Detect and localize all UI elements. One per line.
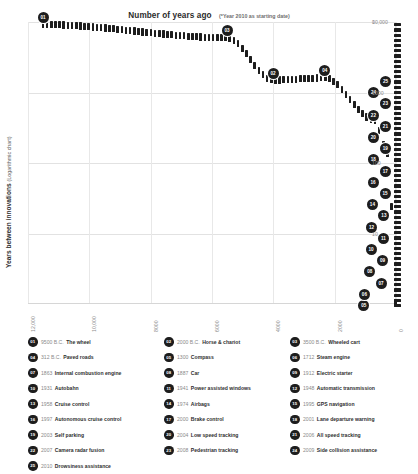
legend-badge-07: 07 xyxy=(28,368,38,378)
legend-item-year: 2006 xyxy=(303,432,314,438)
curve-tick-mark xyxy=(390,203,393,210)
legend-item-year: 1712 xyxy=(303,354,314,360)
legend-item-19[interactable]: 192003Self parking xyxy=(28,427,153,443)
curve-tick-mark xyxy=(394,226,401,229)
curve-tick-mark xyxy=(394,158,401,161)
curve-tick-mark xyxy=(92,23,95,30)
curve-tick-mark xyxy=(394,304,401,307)
data-point-badge-23[interactable]: 23 xyxy=(380,98,391,109)
legend-item-08[interactable]: 081887Car xyxy=(164,365,289,381)
curve-tick-mark xyxy=(112,25,115,32)
legend-item-10[interactable]: 101931Autobahn xyxy=(28,381,153,397)
data-point-badge-11[interactable]: 11 xyxy=(378,233,389,244)
x-axis-ticks: 12,00010,00080006000400020000 xyxy=(28,308,396,334)
legend-item-18[interactable]: 182001Lane departure warning xyxy=(290,412,418,428)
curve-tick-mark xyxy=(394,153,401,156)
legend-item-17[interactable]: 172000Brake control xyxy=(164,412,289,428)
curve-tick-mark xyxy=(158,30,161,37)
legend-item-14[interactable]: 141974Airbags xyxy=(164,396,289,412)
legend-item-year: 2001 xyxy=(303,416,314,422)
data-point-badge-17[interactable]: 17 xyxy=(380,166,391,177)
legend-item-20[interactable]: 202004Low speed tracking xyxy=(164,427,289,443)
legend-item-year: 1997 xyxy=(41,416,52,422)
gridline-v-6000 xyxy=(212,22,213,304)
data-point-badge-10[interactable]: 10 xyxy=(366,244,377,255)
curve-tick-mark xyxy=(237,40,240,47)
legend-item-name: Autobahn xyxy=(55,385,79,391)
data-point-badge-15[interactable]: 15 xyxy=(380,188,391,199)
curve-tick-mark xyxy=(220,34,223,41)
legend-item-year: 2010 xyxy=(41,463,52,469)
legend-item-01[interactable]: 019500 B.C.The wheel xyxy=(28,334,153,350)
curve-tick-mark xyxy=(299,75,302,82)
page-title: Number of years ago xyxy=(128,11,211,20)
data-point-badge-02[interactable]: 02 xyxy=(268,68,279,79)
curve-tick-mark xyxy=(199,33,202,40)
curve-tick-mark xyxy=(394,54,401,57)
legend-badge-22: 22 xyxy=(28,446,38,456)
legend-item-15[interactable]: 151995GPS navigation xyxy=(290,396,418,412)
legend-item-11[interactable]: 111941Power assisted windows xyxy=(164,381,289,397)
curve-tick-mark xyxy=(353,101,356,108)
data-point-badge-22[interactable]: 22 xyxy=(368,110,379,121)
legend-item-05[interactable]: 051300Compass xyxy=(164,350,289,366)
legend-item-year: 1974 xyxy=(177,401,188,407)
legend-item-name: Paved roads xyxy=(63,354,93,360)
curve-tick-mark xyxy=(332,78,335,85)
curve-tick-mark xyxy=(394,179,401,182)
legend-item-07[interactable]: 071863Internal combustion engine xyxy=(28,365,153,381)
legend-item-13[interactable]: 131958Cruise control xyxy=(28,396,153,412)
legend-item-12[interactable]: 121948Automatic transmission xyxy=(290,381,418,397)
curve-tick-mark xyxy=(394,288,401,291)
y-axis-title: Years between innovations (Logarithmic c… xyxy=(5,137,12,268)
legend-item-23[interactable]: 232008Pedestrian tracking xyxy=(164,443,289,459)
legend-item-02[interactable]: 022000 B.C.Horse & chariot xyxy=(164,334,289,350)
y-tick-label-100: 100 xyxy=(372,160,381,166)
data-point-badge-25[interactable]: 25 xyxy=(380,76,391,87)
legend-badge-18: 18 xyxy=(290,415,300,425)
legend-badge-10: 10 xyxy=(28,384,38,394)
x-tick-label-10000: 10,000 xyxy=(91,316,97,332)
data-point-badge-08[interactable]: 08 xyxy=(364,266,375,277)
data-point-badge-19[interactable]: 19 xyxy=(380,143,391,154)
data-point-badge-06[interactable]: 06 xyxy=(359,289,370,300)
curve-tick-mark xyxy=(262,71,265,78)
curve-tick-mark xyxy=(394,200,401,203)
data-point-badge-01[interactable]: 01 xyxy=(38,12,49,23)
curve-tick-mark xyxy=(394,75,401,78)
curve-tick-mark xyxy=(141,28,144,35)
curve-tick-mark xyxy=(125,27,128,34)
curve-tick-mark xyxy=(394,122,401,125)
legend-item-name: Power assisted windows xyxy=(191,385,251,391)
legend-item-06[interactable]: 061712Steam engine xyxy=(290,350,418,366)
chart-legend: 019500 B.C.The wheel04312 B.C.Paved road… xyxy=(24,334,418,460)
data-point-badge-16[interactable]: 16 xyxy=(368,177,379,188)
curve-tick-mark xyxy=(116,26,119,33)
legend-item-year: 2009 xyxy=(303,447,314,453)
curve-tick-mark xyxy=(394,205,401,208)
legend-item-16[interactable]: 161997Autonomous cruise control xyxy=(28,412,153,428)
legend-item-09[interactable]: 091912Electric starter xyxy=(290,365,418,381)
data-point-badge-14[interactable]: 14 xyxy=(367,199,378,210)
legend-item-21[interactable]: 212006All speed tracking xyxy=(290,427,418,443)
data-point-badge-20[interactable]: 20 xyxy=(368,132,379,143)
legend-badge-21: 21 xyxy=(290,430,300,440)
legend-item-25[interactable]: 252010Drowsiness assistance xyxy=(28,458,153,474)
legend-badge-25: 25 xyxy=(28,461,38,471)
legend-item-name: Low speed tracking xyxy=(191,432,239,438)
legend-item-04[interactable]: 04312 B.C.Paved roads xyxy=(28,350,153,366)
curve-tick-mark xyxy=(258,67,261,74)
data-point-badge-13[interactable]: 13 xyxy=(378,210,389,221)
legend-item-name: Brake control xyxy=(191,416,224,422)
data-point-badge-07[interactable]: 07 xyxy=(376,278,387,289)
data-point-badge-09[interactable]: 09 xyxy=(377,255,388,266)
legend-item-name: Cruise control xyxy=(55,401,90,407)
legend-item-03[interactable]: 033500 B.C.Wheeled cart xyxy=(290,334,418,350)
legend-item-24[interactable]: 242009Side collision assistance xyxy=(290,443,418,459)
legend-badge-05: 05 xyxy=(164,353,174,363)
data-point-badge-03[interactable]: 03 xyxy=(222,25,233,36)
legend-item-22[interactable]: 222007Camera radar fusion xyxy=(28,443,153,459)
data-point-badge-21[interactable]: 21 xyxy=(380,121,391,132)
curve-tick-mark xyxy=(249,56,252,63)
gridline-v-2000 xyxy=(335,22,336,304)
